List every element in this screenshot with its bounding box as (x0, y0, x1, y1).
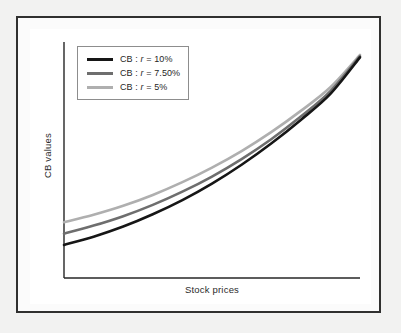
legend-item-label: CB : r = 5% (120, 82, 167, 92)
legend-item-cb-r-10[interactable]: CB : r = 10% (78, 52, 188, 66)
chart-legend: CB : r = 10% CB : r = 7.50% CB : r = 5% (77, 46, 189, 100)
x-axis-title: Stock prices (64, 284, 360, 295)
legend-item-cb-r-750[interactable]: CB : r = 7.50% (78, 66, 188, 80)
legend-swatch-icon (87, 58, 113, 61)
legend-item-cb-r-5[interactable]: CB : r = 5% (78, 80, 188, 94)
legend-swatch-icon (87, 86, 113, 89)
legend-swatch-icon (87, 72, 113, 75)
chart-plot-area (18, 18, 383, 315)
y-axis-title: CB values (42, 111, 53, 201)
legend-item-label: CB : r = 10% (120, 54, 173, 64)
figure-frame: CB values Stock prices CB : r = 10% CB :… (16, 16, 381, 313)
legend-item-label: CB : r = 7.50% (120, 68, 180, 78)
